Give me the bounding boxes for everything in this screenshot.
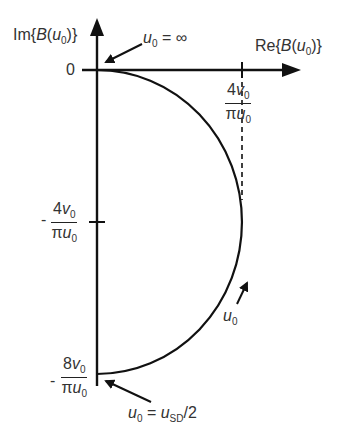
bottom-arrow [106,381,151,402]
annotation-u0-usd-half: u0 = uSD/2 [128,405,197,424]
origin-label: 0 [66,62,75,78]
direction-label: u0 [223,308,237,327]
y-tick-mid-sign: - [41,212,46,228]
re-axis-arrowhead [282,63,301,77]
im-axis-label: Im{B(u0)} [13,27,77,46]
im-axis-arrowhead [90,18,104,36]
annotation-u0-infinity: u0 = ∞ [143,30,187,49]
y-tick-bottom-sign: - [50,373,55,389]
x-tick-label: 4v0 πu0 [225,82,251,125]
re-axis-label: Re{B(u0)} [255,38,322,57]
locus-curve [97,70,242,374]
top-arrow [106,44,142,62]
direction-arrow [237,283,247,304]
y-tick-mid-label: 4v0 πu0 [51,201,77,244]
y-tick-bottom-label: 8v0 πu0 [61,356,87,399]
